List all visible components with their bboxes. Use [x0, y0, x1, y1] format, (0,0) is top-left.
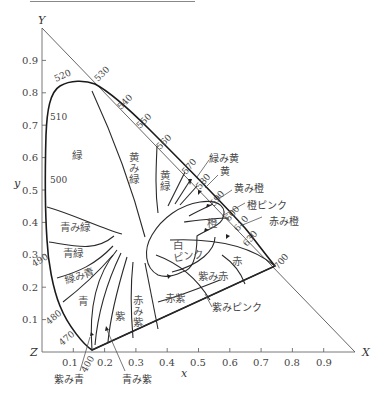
callout-yellow: 黄 — [220, 165, 230, 177]
wl-570: 570 — [180, 156, 199, 176]
corner-y-label: Y — [38, 14, 47, 27]
region-purplish-red: 紫み赤 — [198, 270, 229, 282]
callout-purplish-blue: 紫み青 — [54, 373, 84, 385]
wl-550: 550 — [134, 111, 153, 130]
callout-yellowish-orange: 黄み橙 — [234, 182, 264, 194]
y-tick-0.9: 0.9 — [22, 55, 38, 66]
wl-580: 580 — [194, 171, 213, 191]
callout-reddish-orange: 赤み橙 — [269, 215, 299, 227]
arrow-icon — [90, 332, 94, 336]
y-axis-name: y — [13, 177, 21, 190]
region-bluish-green: 青み緑 — [60, 221, 91, 233]
cie-chromaticity-diagram: 0.9 0.8 0.7 0.6 0.5 0.4 0.3 0.2 0.1 0.1 … — [0, 0, 385, 394]
arrow-icon — [167, 274, 171, 279]
x-tick-0.8: 0.8 — [284, 357, 300, 368]
x-tick-0.3: 0.3 — [128, 357, 144, 368]
region-orange: 橙 — [207, 217, 218, 229]
wl-480: 480 — [44, 308, 64, 327]
region-green: 緑 — [72, 149, 83, 161]
y-tick-0.5: 0.5 — [22, 185, 38, 196]
y-tick-0.4: 0.4 — [22, 217, 38, 228]
wl-500: 500 — [50, 175, 67, 185]
x-tick-0.7: 0.7 — [253, 357, 269, 368]
x-tick-0.4: 0.4 — [159, 357, 175, 368]
wl-510: 510 — [50, 112, 67, 122]
x-ticks — [73, 348, 323, 352]
region-blue-green: 青緑 — [63, 247, 84, 259]
callout-purplish-pink: 紫みピンク — [212, 302, 262, 313]
y-tick-0.2: 0.2 — [22, 282, 38, 293]
x-axis-name: x — [181, 367, 188, 380]
region-reddish-purple: 赤み紫 — [131, 295, 143, 328]
region-red-purple: 赤紫 — [165, 292, 185, 304]
region-red: 赤 — [232, 255, 243, 267]
callout-bluish-purple: 青み紫 — [122, 373, 152, 385]
callout-orange-pink: 橙ピンク — [247, 199, 287, 211]
y-tick-0.1: 0.1 — [22, 314, 38, 325]
region-yellow-green: 黄み緑 — [127, 151, 139, 185]
wl-530: 530 — [92, 64, 111, 83]
region-white: 白 — [173, 239, 183, 251]
x-tick-0.9: 0.9 — [316, 357, 332, 368]
wavelength-labels: 520 530 540 550 560 570 580 590 600 610 … — [30, 64, 291, 374]
corner-x-label: X — [361, 346, 371, 359]
arrow-icon — [226, 234, 230, 239]
y-tick-0.6: 0.6 — [22, 152, 38, 163]
region-blue: 青 — [78, 295, 88, 307]
region-purple: 紫 — [115, 310, 125, 322]
x-tick-0.5: 0.5 — [190, 357, 206, 368]
wl-520: 520 — [53, 67, 73, 83]
wl-700: 700 — [272, 251, 291, 271]
callout-greenish-yellow: 緑み黄 — [209, 152, 239, 164]
wl-630: 630 — [241, 228, 260, 248]
x-tick-0.6: 0.6 — [222, 357, 238, 368]
x-tick-0.2: 0.2 — [97, 357, 113, 368]
wl-560: 560 — [154, 132, 173, 151]
region-yellowish-green: 黄緑 — [158, 169, 170, 192]
y-tick-0.8: 0.8 — [22, 87, 38, 98]
wl-540: 540 — [115, 92, 134, 111]
region-greenish-blue: 緑み青 — [63, 265, 95, 286]
y-tick-0.7: 0.7 — [22, 120, 38, 131]
corner-z-label: Z — [29, 346, 38, 359]
x-tick-0.1: 0.1 — [62, 357, 78, 368]
